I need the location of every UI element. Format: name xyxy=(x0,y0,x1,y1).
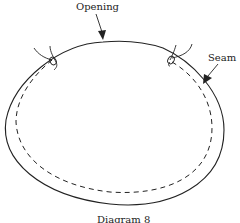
thread-tie-right xyxy=(166,44,192,66)
diagram-caption: Diagram 8 xyxy=(97,215,150,223)
opening-label: Opening xyxy=(76,2,119,12)
outer-edge xyxy=(5,41,224,205)
seam-line xyxy=(16,60,212,192)
thread-tie-left xyxy=(34,46,58,70)
seam-label: Seam xyxy=(208,53,236,63)
seam-arrow xyxy=(203,64,218,84)
opening-arrow xyxy=(96,14,106,40)
sewing-diagram: Opening Seam Diagram 8 xyxy=(0,0,240,223)
